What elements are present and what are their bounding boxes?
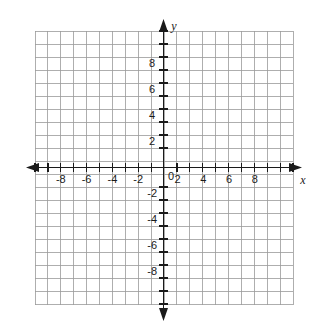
y-tick-label: 6	[149, 83, 155, 95]
y-tick-label: -6	[147, 239, 157, 251]
origin-label: 0	[168, 170, 174, 182]
y-tick-label: -8	[147, 265, 157, 277]
y-tick-label: 8	[149, 57, 155, 69]
x-tick-label: 6	[226, 173, 232, 185]
x-tick-label: -2	[133, 173, 143, 185]
y-axis-name-label: y	[170, 19, 177, 33]
x-tick-label: 2	[174, 173, 180, 185]
figure-background	[0, 0, 324, 326]
x-tick-label: 4	[200, 173, 206, 185]
x-axis-name-label: x	[299, 173, 306, 187]
y-tick-label: 4	[149, 109, 155, 121]
y-tick-label: -2	[147, 187, 157, 199]
y-tick-label: -4	[147, 213, 157, 225]
x-tick-label: -6	[82, 173, 92, 185]
coordinate-plane-figure: -8 -6 -4 -2 2 4 6 8 8 6 4 2 -2 -4 -6 -8 …	[0, 0, 324, 326]
y-tick-label: 2	[149, 135, 155, 147]
coordinate-plane-svg: -8 -6 -4 -2 2 4 6 8 8 6 4 2 -2 -4 -6 -8 …	[0, 0, 324, 326]
x-tick-label: -4	[108, 173, 118, 185]
x-tick-label: -8	[56, 173, 66, 185]
x-tick-label: 8	[252, 173, 258, 185]
